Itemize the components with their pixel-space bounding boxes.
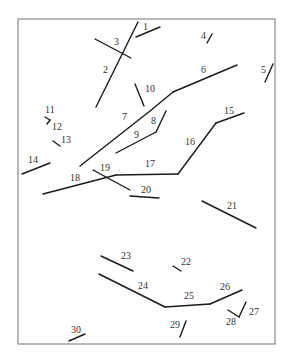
segment-label-14: 14 bbox=[28, 154, 38, 165]
segment-29 bbox=[180, 321, 186, 337]
segment-label-25: 25 bbox=[184, 290, 194, 301]
segment-27 bbox=[239, 302, 246, 317]
segment-12 bbox=[47, 120, 50, 124]
segment-25 bbox=[165, 304, 210, 307]
segment-20 bbox=[130, 196, 159, 198]
segment-17 bbox=[116, 174, 178, 175]
segment-16 bbox=[178, 123, 216, 174]
segment-22 bbox=[173, 266, 181, 271]
segment-5 bbox=[265, 64, 273, 82]
segment-label-9: 9 bbox=[134, 129, 139, 140]
segment-label-1: 1 bbox=[143, 21, 148, 32]
segment-7 bbox=[80, 92, 173, 166]
segment-label-19: 19 bbox=[100, 162, 110, 173]
segment-label-20: 20 bbox=[141, 184, 151, 195]
segment-diagram: 1234567891011121314151617181920212223242… bbox=[0, 0, 290, 362]
segment-label-28: 28 bbox=[226, 316, 236, 327]
segment-13 bbox=[53, 141, 60, 146]
segment-label-24: 24 bbox=[138, 280, 148, 291]
segment-label-12: 12 bbox=[52, 121, 62, 132]
segment-label-21: 21 bbox=[227, 200, 237, 211]
segment-label-7: 7 bbox=[122, 111, 127, 122]
segment-label-3: 3 bbox=[114, 36, 119, 47]
segment-8 bbox=[156, 111, 166, 132]
segment-label-18: 18 bbox=[70, 172, 80, 183]
segment-label-10: 10 bbox=[145, 83, 155, 94]
segment-label-16: 16 bbox=[185, 136, 195, 147]
segment-label-30: 30 bbox=[71, 324, 81, 335]
segment-label-29: 29 bbox=[170, 319, 180, 330]
segment-label-5: 5 bbox=[261, 64, 266, 75]
segment-label-6: 6 bbox=[201, 64, 206, 75]
segment-26 bbox=[210, 290, 242, 304]
segment-10 bbox=[135, 84, 144, 106]
segments-group bbox=[22, 22, 273, 341]
segment-label-2: 2 bbox=[103, 64, 108, 75]
segment-label-8: 8 bbox=[151, 115, 156, 126]
segment-label-22: 22 bbox=[181, 256, 191, 267]
segment-11 bbox=[45, 117, 50, 120]
segment-4 bbox=[207, 34, 212, 43]
segment-label-4: 4 bbox=[201, 30, 206, 41]
segment-label-13: 13 bbox=[61, 134, 71, 145]
segment-24 bbox=[99, 274, 165, 307]
segment-label-27: 27 bbox=[249, 306, 259, 317]
diagram-frame bbox=[18, 19, 275, 344]
segment-label-11: 11 bbox=[45, 104, 55, 115]
segment-label-15: 15 bbox=[224, 105, 234, 116]
segment-1 bbox=[136, 27, 160, 37]
segment-label-26: 26 bbox=[220, 281, 230, 292]
segment-label-17: 17 bbox=[145, 158, 155, 169]
segment-30 bbox=[69, 334, 85, 341]
segment-label-23: 23 bbox=[121, 250, 131, 261]
